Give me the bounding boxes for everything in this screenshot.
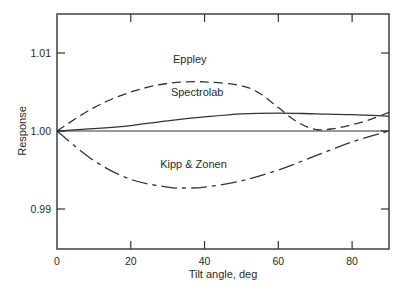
series-label: Kipp & Zonen: [160, 158, 227, 170]
series-label: Eppley: [173, 53, 207, 65]
x-tick-label: 40: [199, 255, 211, 267]
y-tick-label: 0.99: [31, 203, 52, 215]
x-tick-label: 80: [346, 255, 358, 267]
tick-labels: 0204060800.991.001.01: [31, 47, 359, 267]
series-label: Spectrolab: [171, 86, 224, 98]
y-axis-label: Response: [16, 106, 28, 156]
tilt-response-chart: 0204060800.991.001.01 EppleySpectrolabKi…: [0, 0, 406, 296]
x-tick-label: 20: [125, 255, 137, 267]
y-tick-label: 1.01: [31, 47, 52, 59]
x-tick-label: 0: [54, 255, 60, 267]
y-tick-label: 1.00: [31, 125, 52, 137]
x-tick-label: 60: [272, 255, 284, 267]
x-axis-label: Tilt angle, deg: [189, 268, 258, 280]
series-spectrolab: [57, 113, 389, 131]
series-labels: EppleySpectrolabKipp & Zonen: [160, 53, 227, 170]
